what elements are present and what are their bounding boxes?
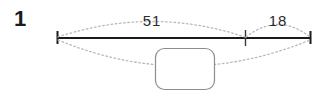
bar-model-diagram: 51 18	[0, 0, 327, 93]
worksheet-problem-1: 1 51 18	[0, 0, 327, 93]
answer-box[interactable]	[156, 49, 215, 90]
right-part-label: 18	[269, 12, 288, 29]
left-part-label: 51	[143, 12, 162, 29]
